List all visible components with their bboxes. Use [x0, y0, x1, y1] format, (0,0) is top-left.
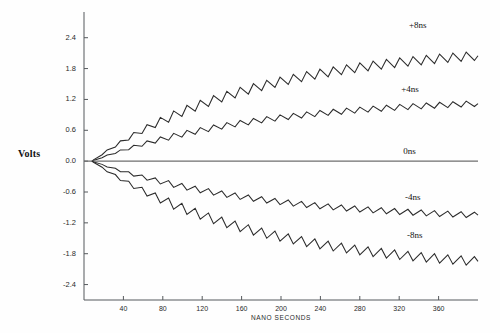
y-axis-title: Volts — [18, 148, 40, 159]
x-tick-label: 80 — [148, 305, 178, 312]
y-tick-label: -2.4 — [40, 280, 76, 289]
y-tick-label: 1.2 — [40, 94, 76, 103]
y-tick-label: -1.2 — [40, 218, 76, 227]
x-tick-label: 360 — [424, 305, 454, 312]
y-tick-label: 2.4 — [40, 33, 76, 42]
x-tick-label: 160 — [227, 305, 257, 312]
series-label-0ns: 0ns — [403, 146, 416, 156]
x-axis-title: NANO SECONDS — [251, 314, 311, 321]
series-label-minus4ns: -4ns — [405, 192, 421, 202]
y-tick-label: 0.6 — [40, 125, 76, 134]
y-tick-label: 1.8 — [40, 64, 76, 73]
axis-lines — [84, 12, 478, 300]
y-tick-label: -0.6 — [40, 187, 76, 196]
axis-ticks — [84, 38, 439, 300]
series-label-plus4ns: +4ns — [401, 84, 419, 94]
y-tick-label: -1.8 — [40, 249, 76, 258]
y-tick-label: 0.0 — [40, 156, 76, 165]
x-tick-label: 120 — [187, 305, 217, 312]
x-tick-label: 200 — [266, 305, 296, 312]
chart-container: Volts NANO SECONDS 2.41.81.20.60.0-0.6-1… — [0, 0, 500, 333]
x-tick-label: 320 — [384, 305, 414, 312]
x-tick-label: 40 — [108, 305, 138, 312]
series-label-plus8ns: +8ns — [409, 20, 427, 30]
series-label-minus8ns: -8ns — [407, 230, 423, 240]
x-tick-label: 280 — [345, 305, 375, 312]
x-tick-label: 240 — [305, 305, 335, 312]
